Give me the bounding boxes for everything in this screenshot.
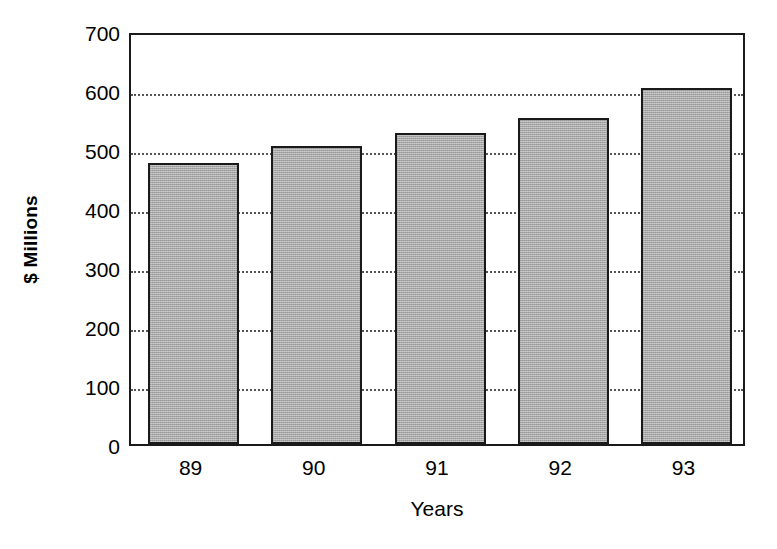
- y-axis-tick-200: 200: [12, 318, 120, 339]
- x-axis-tick-89: 89: [129, 455, 252, 481]
- y-axis-tick-700: 700: [12, 23, 120, 44]
- y-axis-tick-100: 100: [12, 377, 120, 398]
- bar-93[interactable]: [641, 88, 732, 444]
- plot-inner: [131, 35, 743, 444]
- plot-area: [129, 33, 745, 446]
- bar-90[interactable]: [271, 146, 362, 444]
- y-axis-tick-400: 400: [12, 200, 120, 221]
- x-axis-tick-labels: 8990919293: [129, 455, 745, 485]
- y-axis-tick-labels: 0100200300400500600700: [8, 0, 120, 549]
- y-axis-tick-500: 500: [12, 141, 120, 162]
- y-axis-tick-300: 300: [12, 259, 120, 280]
- x-axis-tick-90: 90: [252, 455, 375, 481]
- bar-chart: $ Millions 0100200300400500600700 899091…: [0, 0, 777, 549]
- y-axis-tick-600: 600: [12, 82, 120, 103]
- bar-92[interactable]: [518, 118, 609, 444]
- bar-91[interactable]: [395, 133, 486, 444]
- y-axis-tick-0: 0: [12, 436, 120, 457]
- x-axis-tick-93: 93: [622, 455, 745, 481]
- x-axis-tick-92: 92: [499, 455, 622, 481]
- x-axis-tick-91: 91: [375, 455, 498, 481]
- x-axis-title: Years: [129, 496, 745, 522]
- bar-89[interactable]: [148, 163, 239, 444]
